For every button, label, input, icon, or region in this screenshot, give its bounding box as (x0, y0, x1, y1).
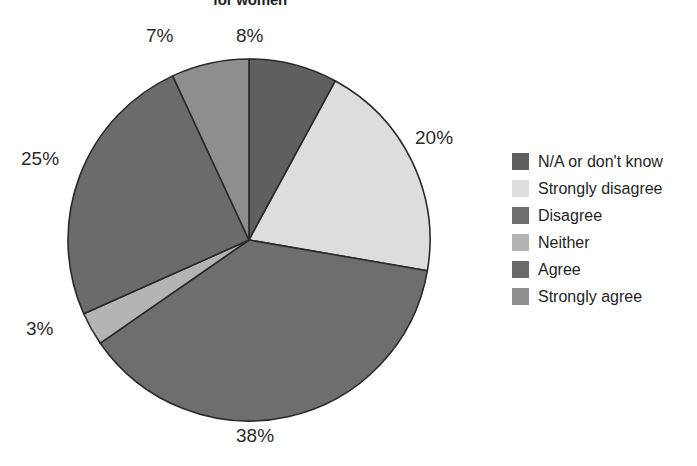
legend-item-label: N/A or don't know (538, 154, 663, 170)
legend-swatch-icon (512, 153, 529, 170)
legend-item-label: Strongly agree (538, 289, 642, 305)
pie-value-label-3: 3% (26, 318, 53, 340)
legend-item-label: Neither (538, 235, 590, 251)
legend-swatch-icon (512, 234, 529, 251)
legend-item-label: Disagree (538, 208, 602, 224)
legend-item: Disagree (512, 202, 692, 229)
pie-value-label-4: 25% (21, 148, 59, 170)
pie-value-label-0: 8% (236, 25, 263, 47)
legend-item-label: Strongly disagree (538, 181, 663, 197)
legend-swatch-icon (512, 261, 529, 278)
chart-legend: N/A or don't know Strongly disagree Disa… (512, 148, 692, 310)
pie-value-label-1: 20% (415, 127, 453, 149)
legend-item-label: Agree (538, 262, 581, 278)
legend-swatch-icon (512, 288, 529, 305)
pie-value-label-2: 38% (236, 425, 274, 447)
legend-item: Neither (512, 229, 692, 256)
legend-swatch-icon (512, 180, 529, 197)
legend-item: N/A or don't know (512, 148, 692, 175)
pie-chart (67, 58, 431, 422)
legend-swatch-icon (512, 207, 529, 224)
pie-value-label-5: 7% (146, 25, 173, 47)
legend-item: Strongly disagree (512, 175, 692, 202)
pie-chart-svg (67, 58, 431, 422)
pie-slice-group (68, 59, 430, 421)
chart-title: for women (0, 0, 500, 8)
legend-item: Strongly agree (512, 283, 692, 310)
chart-page: for women 8% 20% 38% 3% 25% 7% N/A or do… (0, 0, 697, 466)
legend-item: Agree (512, 256, 692, 283)
